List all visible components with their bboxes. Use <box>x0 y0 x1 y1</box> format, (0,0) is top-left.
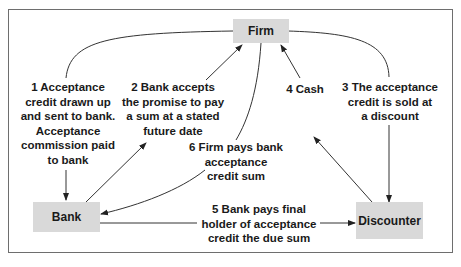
step-3-label: 3 The acceptance credit is sold at a dis… <box>340 80 440 124</box>
line-firm-to-step6 <box>236 43 261 140</box>
firm-label: Firm <box>248 24 274 38</box>
bank-label: Bank <box>52 210 81 224</box>
arrow-step2-to-firm <box>206 45 242 80</box>
line-step1-to-firm <box>66 31 233 78</box>
step-4-label: 4 Cash <box>285 82 325 97</box>
step-5-label: 5 Bank pays final holder of acceptance c… <box>196 202 322 246</box>
discounter-node: Discounter <box>356 202 423 239</box>
line-firm-to-step3 <box>288 31 389 77</box>
firm-node: Firm <box>233 19 289 43</box>
step-2-label: 2 Bank accepts the promise to pay a sum … <box>121 80 225 138</box>
arrow-cash-to-firm <box>281 45 300 78</box>
step-6-label: 6 Firm pays bank acceptance credit sum <box>184 140 288 184</box>
discounter-label: Discounter <box>358 214 421 228</box>
step-1-label: 1 Acceptance credit drawn up and sent to… <box>16 80 120 167</box>
arrow-discounter-to-cash <box>314 137 372 202</box>
bank-node: Bank <box>33 202 100 232</box>
